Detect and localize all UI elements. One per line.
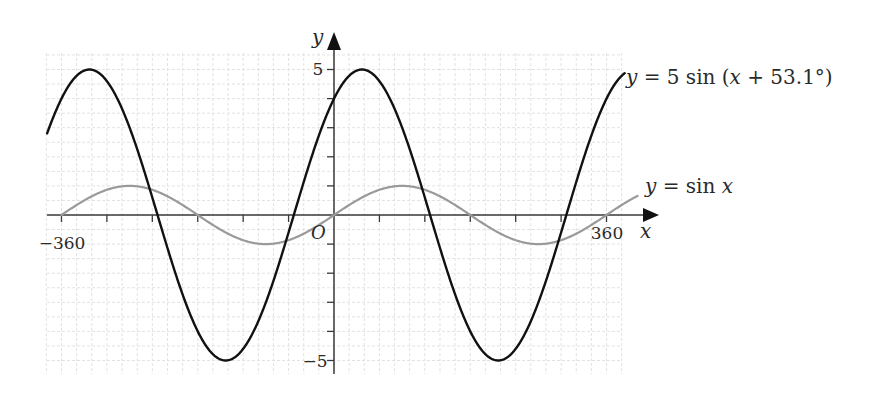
- chart: x y O −360 360 5 −5 y = 5 sin (x + 53.1°…: [0, 0, 877, 393]
- legend-text: + 53.1°): [741, 65, 833, 89]
- y-tick-label-min: −5: [302, 351, 327, 371]
- legend-label-sin: y = sin x: [644, 174, 733, 198]
- y-axis-arrow-icon: [327, 32, 341, 50]
- x-tick-label-max: 360: [591, 223, 623, 243]
- y-axis-label: y: [311, 25, 324, 49]
- x-axis-label: x: [640, 219, 651, 243]
- legend-text: = 5 sin (: [637, 65, 729, 89]
- legend-x: x: [722, 174, 733, 198]
- legend-x: x: [730, 65, 741, 89]
- origin-label: O: [311, 222, 326, 243]
- x-tick-label-min: −360: [39, 233, 86, 253]
- legend-text: = sin: [656, 174, 721, 198]
- legend-y: y: [644, 174, 657, 198]
- legend-label-5sin: y = 5 sin (x + 53.1°): [625, 65, 833, 89]
- legend-y: y: [625, 65, 638, 89]
- y-tick-label-max: 5: [313, 59, 324, 79]
